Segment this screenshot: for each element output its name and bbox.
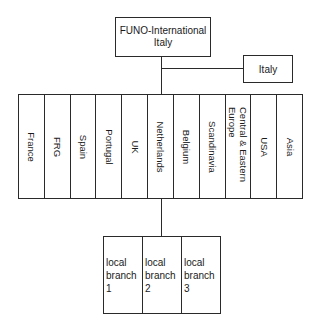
connector-root-to-countries <box>161 57 162 94</box>
country-label: FRG <box>52 136 63 156</box>
branch-label-line1: local <box>184 256 220 269</box>
country-node-spain: Spain <box>71 95 97 198</box>
connector-root-to-italy <box>161 68 243 69</box>
country-node-frg: FRG <box>45 95 71 198</box>
root-node-label-line2: Italy <box>154 37 172 49</box>
branch-node-1: local branch 1 <box>104 237 143 313</box>
country-label: Portugal <box>103 129 114 164</box>
branch-label-line1: local <box>145 256 181 269</box>
country-label: Central & Eastern Europe <box>227 107 249 187</box>
country-node-central-eastern-europe: Central & Eastern Europe <box>226 95 252 198</box>
country-node-netherlands: Netherlands <box>148 95 174 198</box>
branch-label-line2: branch 2 <box>145 269 181 295</box>
country-label: UK <box>129 140 140 153</box>
root-node-funo-international: FUNO-International Italy <box>115 17 211 57</box>
branch-label-line1: local <box>106 256 142 269</box>
country-label: Belgium <box>181 129 192 163</box>
connector-countries-to-branches <box>161 199 162 236</box>
country-node-scandinavia: Scandinavia <box>200 95 226 198</box>
branch-node-2: local branch 2 <box>143 237 182 313</box>
side-node-label: Italy <box>259 64 277 75</box>
country-row: France FRG Spain Portugal UK Netherlands… <box>18 94 303 199</box>
branch-label-line2: branch 1 <box>106 269 142 295</box>
country-label: Scandinavia <box>207 121 218 173</box>
branch-node-3: local branch 3 <box>182 237 220 313</box>
side-node-italy: Italy <box>243 55 293 83</box>
country-node-belgium: Belgium <box>174 95 200 198</box>
country-label: Asia <box>284 137 295 155</box>
root-node-label-line1: FUNO-International <box>120 25 207 37</box>
country-label: USA <box>258 137 269 157</box>
local-branches-group: local branch 1 local branch 2 local bran… <box>103 236 221 314</box>
branch-label-line2: branch 3 <box>184 269 220 295</box>
country-node-asia: Asia <box>277 95 302 198</box>
country-node-france: France <box>19 95 45 198</box>
country-node-portugal: Portugal <box>96 95 122 198</box>
country-label: France <box>26 132 37 162</box>
country-label: Spain <box>78 134 89 158</box>
country-label: Netherlands <box>155 121 166 172</box>
country-node-usa: USA <box>251 95 277 198</box>
country-node-uk: UK <box>122 95 148 198</box>
